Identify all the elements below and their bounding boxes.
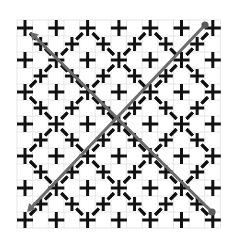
endpoint-dot-icon [201, 21, 208, 28]
plus-cross-icon [142, 52, 158, 68]
plus-cross-icon [80, 180, 96, 196]
lattice-diagram [0, 0, 233, 247]
plus-cross-icon [48, 84, 64, 100]
plus-cross-icon [48, 20, 64, 36]
plus-cross-icon [48, 148, 64, 164]
plus-cross-icon [111, 212, 127, 228]
plus-cross-icon [174, 20, 190, 36]
plus-cross-icon [205, 116, 221, 132]
plus-cross-icon [111, 148, 127, 164]
plus-cross-icon [80, 52, 96, 68]
plus-cross-icon [111, 84, 127, 100]
plus-cross-icon [17, 116, 33, 132]
plus-cross-icon [174, 148, 190, 164]
plus-cross-icon [80, 116, 96, 132]
plus-cross-icon [111, 20, 127, 36]
plus-cross-icon [17, 180, 33, 196]
endpoint-dot-icon [208, 208, 215, 215]
plus-cross-icon [17, 52, 33, 68]
diagram-svg [0, 0, 233, 247]
plus-cross-icon [142, 180, 158, 196]
plus-cross-icon [174, 212, 190, 228]
plus-cross-icon [174, 84, 190, 100]
plus-cross-icon [48, 212, 64, 228]
plus-cross-icon [205, 52, 221, 68]
plus-cross-icon [205, 180, 221, 196]
plus-cross-icon [142, 116, 158, 132]
